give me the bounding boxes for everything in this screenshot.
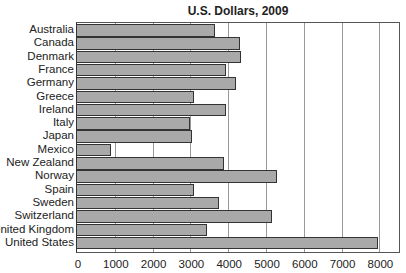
bar [77, 144, 111, 157]
y-axis-label: United Kingdom [0, 223, 74, 236]
x-axis-tick: 8000 [368, 258, 394, 270]
bar [77, 24, 215, 37]
bar [77, 210, 272, 223]
gridline [379, 23, 380, 252]
x-axis-tick: 1000 [103, 258, 129, 270]
y-axis-label: Spain [45, 183, 74, 196]
y-axis-label: Germany [27, 76, 74, 89]
bar [77, 64, 226, 77]
gridline [304, 23, 305, 252]
y-axis-label: New Zealand [6, 156, 74, 169]
y-axis-label: Switzerland [15, 209, 74, 222]
y-axis-label: Denmark [27, 50, 74, 63]
y-axis-label: Sweden [32, 196, 74, 209]
bar [77, 170, 277, 183]
y-axis-label: France [38, 63, 74, 76]
y-axis-label: United States [5, 236, 74, 249]
x-axis-tick: 6000 [292, 258, 318, 270]
y-axis-label: Italy [53, 116, 74, 129]
y-axis-label: Japan [43, 129, 74, 142]
x-axis-tick: 2000 [141, 258, 167, 270]
bar [77, 51, 241, 64]
x-axis-tick: 4000 [216, 258, 242, 270]
bar [77, 157, 224, 170]
bar [77, 184, 194, 197]
bar [77, 130, 192, 143]
y-axis-label: Mexico [38, 143, 74, 156]
bar [77, 224, 207, 237]
x-axis-tick: 3000 [179, 258, 205, 270]
y-axis-label: Norway [35, 169, 74, 182]
bar [77, 91, 194, 104]
bar [77, 104, 226, 117]
chart-title: U.S. Dollars, 2009 [76, 4, 400, 18]
bar [77, 237, 378, 250]
bar [77, 77, 236, 90]
y-axis-label: Greece [36, 90, 74, 103]
y-axis-label: Australia [29, 23, 74, 36]
bar [77, 37, 240, 50]
bar [77, 197, 219, 210]
gridline [342, 23, 343, 252]
y-axis-label: Ireland [39, 103, 74, 116]
x-axis-tick: 5000 [254, 258, 280, 270]
y-axis-label: Canada [34, 36, 74, 49]
x-axis-tick: 7000 [330, 258, 356, 270]
x-axis-tick: 0 [75, 258, 81, 270]
bar [77, 117, 190, 130]
plot-area [76, 22, 400, 253]
